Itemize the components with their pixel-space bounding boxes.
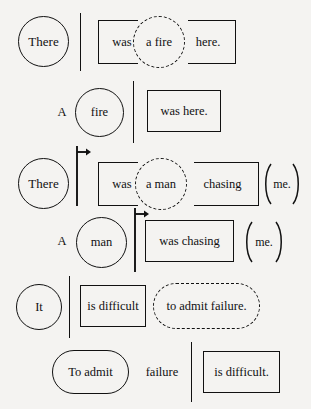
- constituent-a-man-notional-subject: a man: [135, 158, 187, 210]
- constituent-label: was: [112, 36, 131, 49]
- constituent-was-verb: was: [98, 20, 138, 64]
- constituent-label: There: [28, 35, 58, 48]
- constituent-label: chasing: [203, 178, 241, 191]
- constituent-it-anticipatory-subject: It: [16, 284, 62, 330]
- constituent-label: It: [35, 301, 43, 314]
- constituent-is-difficult-predicate: is difficult.: [203, 351, 280, 393]
- constituent-man-subject: man: [76, 217, 127, 268]
- constituent-a-fire-notional-subject: a fire: [133, 16, 185, 68]
- constituent-label: me.: [255, 236, 273, 248]
- constituent-is-difficult-predicate: is difficult: [80, 285, 146, 327]
- diagram-row-5: It is difficult to admit failure.: [0, 272, 311, 340]
- constituent-label: was chasing: [159, 235, 220, 248]
- constituent-was-verb: was: [98, 162, 138, 206]
- constituent-label: is difficult.: [214, 366, 269, 379]
- constituent-label: There: [28, 177, 58, 190]
- constituent-label: a fire: [146, 36, 172, 49]
- constituent-label: is difficult: [87, 300, 139, 313]
- constituent-to-admit-failure-notional-subject: to admit failure.: [153, 283, 260, 329]
- constituent-label: was here.: [160, 105, 207, 118]
- row-6-divider: [191, 342, 192, 402]
- constituent-chasing-participle: chasing: [194, 162, 259, 206]
- constituent-was-here-predicate: was here.: [147, 90, 221, 132]
- constituent-was-chasing-predicate: was chasing: [145, 220, 234, 262]
- constituent-a-determiner: A: [52, 101, 72, 123]
- constituent-label: was: [112, 178, 131, 191]
- syntax-constituent-diagram: There was a fire here. A fire was here. …: [0, 0, 311, 409]
- constituent-label: A: [57, 106, 66, 119]
- constituent-label: failure: [146, 366, 179, 379]
- constituent-a-determiner: A: [52, 230, 72, 252]
- constituent-label: fire: [91, 106, 108, 119]
- diagram-row-1: There was a fire here.: [0, 0, 311, 90]
- row-2-divider: [133, 81, 134, 143]
- constituent-label: a man: [146, 178, 176, 191]
- constituent-fire-subject: fire: [75, 88, 124, 137]
- constituent-failure-object: failure: [138, 361, 186, 383]
- row-3-divider-with-arrow: [72, 144, 92, 208]
- constituent-there-subject: There: [18, 158, 69, 209]
- constituent-label: here.: [196, 36, 221, 49]
- row-5-divider: [69, 276, 70, 338]
- constituent-to-admit-infinitive: To admit: [52, 350, 129, 394]
- bar-arrow-icon: [72, 144, 92, 208]
- constituent-label: A: [57, 235, 66, 248]
- diagram-row-3: There was a man chasing me.: [0, 142, 311, 214]
- diagram-row-2: A fire was here.: [0, 83, 311, 148]
- constituent-here-complement: here.: [188, 20, 236, 64]
- constituent-label: To admit: [68, 366, 113, 379]
- constituent-me-object: me.: [243, 220, 285, 264]
- diagram-row-6: To admit failure is difficult.: [0, 342, 311, 406]
- constituent-label: to admit failure.: [166, 300, 246, 313]
- constituent-there-subject: There: [18, 16, 69, 67]
- constituent-label: man: [91, 236, 113, 249]
- constituent-me-object: me.: [262, 162, 302, 206]
- constituent-label: me.: [273, 178, 291, 190]
- row-1-divider: [80, 13, 81, 71]
- diagram-row-4: A man was chasing me.: [0, 208, 311, 278]
